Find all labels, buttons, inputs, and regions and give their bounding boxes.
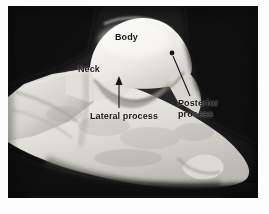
label-lateral-process: Lateral process: [90, 111, 158, 122]
label-neck: Neck: [78, 64, 100, 75]
label-posterior-process: Posterior process: [178, 98, 218, 119]
anatomy-figure: Body Neck Lateral process Posterior proc…: [0, 0, 269, 214]
label-body: Body: [115, 32, 138, 43]
label-posterior-process-line2: process: [178, 109, 218, 120]
label-posterior-process-line1: Posterior: [178, 98, 218, 109]
label-lateral-process-text: Lateral process: [90, 111, 158, 122]
label-neck-text: Neck: [78, 64, 100, 75]
label-body-text: Body: [115, 32, 138, 43]
